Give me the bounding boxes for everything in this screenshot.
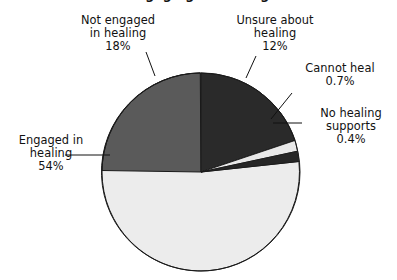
pie-slices bbox=[101, 73, 300, 271]
pie-label-no-supports-value: 0.4% bbox=[306, 133, 396, 146]
pie-slice-not-engaged-in-healing[interactable] bbox=[102, 73, 201, 172]
pie-label-cannot-heal-value: 0.7% bbox=[288, 75, 392, 88]
pie-label-unsure-value: 12% bbox=[219, 40, 331, 53]
pie-label-not-engaged-in-healing: Not engaged in healing 18% bbox=[63, 14, 173, 54]
leader-line-not-engaged bbox=[146, 52, 155, 76]
pie-label-engaged-value: 54% bbox=[4, 160, 98, 173]
leader-line-unsure bbox=[246, 56, 256, 78]
pie-chart-figure: engaging in healing Not engaged in h bbox=[0, 0, 397, 280]
pie-label-no-healing-supports: No healing supports 0.4% bbox=[306, 107, 396, 147]
pie-label-not-engaged-value: 18% bbox=[63, 40, 173, 53]
pie-label-unsure-about-healing: Unsure about healing 12% bbox=[219, 14, 331, 54]
pie-label-cannot-heal: Cannot heal 0.7% bbox=[288, 62, 392, 88]
pie-label-engaged-in-healing: Engaged in healing 54% bbox=[4, 134, 98, 174]
